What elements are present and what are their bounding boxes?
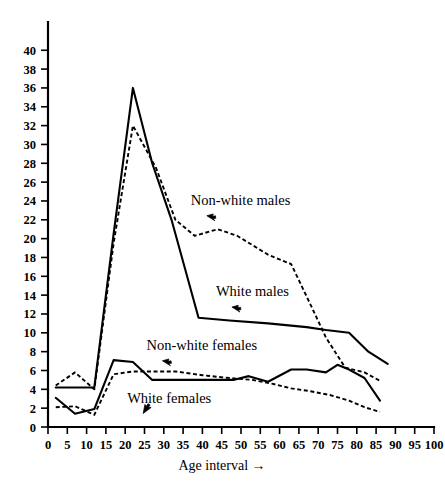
y-tick-label: 24	[24, 194, 37, 208]
annotation-non-white-females: Non-white females	[146, 337, 257, 353]
y-tick-label: 8	[30, 345, 36, 359]
y-tick-label: 28	[24, 157, 37, 171]
y-tick-label: 0	[30, 421, 36, 435]
x-tick-group: 0510152025303540455055606570758085909510…	[45, 427, 444, 452]
x-axis: 0510152025303540455055606570758085909510…	[45, 427, 444, 452]
y-tick-label: 2	[30, 402, 36, 416]
x-tick-label: 70	[312, 438, 325, 452]
y-tick-label: 16	[24, 270, 37, 284]
y-axis: 0246810121416182022242628303234363840	[24, 22, 49, 435]
y-tick-label: 30	[24, 138, 37, 152]
y-tick-label: 6	[30, 364, 36, 378]
x-tick-label: 20	[119, 438, 132, 452]
y-tick-label: 34	[24, 100, 37, 114]
x-tick-label: 30	[158, 438, 171, 452]
annotation-white-females: White females	[127, 390, 211, 406]
y-tick-label: 40	[24, 44, 37, 58]
y-tick-label: 14	[24, 289, 37, 303]
y-tick-label: 18	[24, 251, 37, 265]
x-tick-label: 90	[389, 438, 402, 452]
y-tick-label: 38	[24, 63, 37, 77]
annotation-white-males: White males	[216, 283, 289, 299]
x-tick-label: 55	[254, 438, 267, 452]
y-tick-label: 26	[24, 176, 37, 190]
x-tick-label: 15	[100, 438, 113, 452]
x-tick-label: 40	[196, 438, 209, 452]
series-line-white-females	[56, 371, 380, 414]
y-tick-label: 36	[24, 81, 37, 95]
x-tick-label: 45	[215, 438, 228, 452]
series-line-non-white-females	[56, 360, 380, 414]
x-tick-label: 50	[235, 438, 248, 452]
y-tick-label: 10	[24, 326, 37, 340]
x-tick-label: 60	[273, 438, 286, 452]
annotation-pointer-icon	[207, 214, 216, 221]
y-tick-label: 20	[24, 232, 37, 246]
x-tick-label: 95	[408, 438, 421, 452]
x-axis-title: Age interval →	[178, 458, 265, 473]
y-tick-label: 22	[24, 213, 37, 227]
x-tick-label: 0	[45, 438, 51, 452]
series-group	[56, 88, 388, 415]
annotation-pointer-icon	[232, 305, 241, 312]
x-tick-label: 25	[138, 438, 151, 452]
x-tick-label: 85	[370, 438, 383, 452]
x-tick-label: 5	[64, 438, 70, 452]
y-tick-group: 0246810121416182022242628303234363840	[24, 44, 49, 435]
chart-figure: 0246810121416182022242628303234363840 05…	[0, 0, 445, 492]
x-tick-label: 35	[177, 438, 190, 452]
y-tick-label: 12	[24, 307, 37, 321]
x-tick-label: 10	[80, 438, 93, 452]
y-tick-label: 4	[30, 383, 37, 397]
y-tick-label: 32	[24, 119, 37, 133]
x-tick-label: 65	[293, 438, 306, 452]
x-tick-label: 100	[425, 438, 444, 452]
annotation-non-white-males: Non-white males	[191, 192, 291, 208]
x-tick-label: 80	[351, 438, 364, 452]
line-chart-svg: 0246810121416182022242628303234363840 05…	[0, 0, 445, 492]
annotation-pointer-icon	[162, 359, 171, 366]
x-tick-label: 75	[331, 438, 344, 452]
